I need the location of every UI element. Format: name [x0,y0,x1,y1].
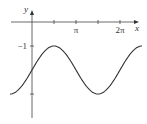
chart: π2π−1 y x [0,0,147,124]
x-tick-label: 2π [115,25,125,35]
curve-group [10,46,142,94]
sine-curve [10,46,142,94]
x-axis-label: x [134,23,139,33]
x-tick-label: π [74,25,79,35]
ticks: π2π−1 [17,20,125,94]
y-axis-arrow [30,10,34,15]
y-tick-label: −1 [17,41,27,51]
y-axis-label: y [23,4,28,14]
